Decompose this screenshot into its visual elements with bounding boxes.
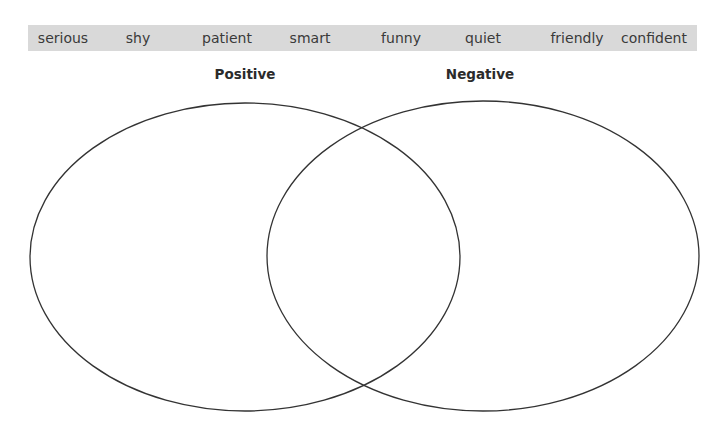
positive-ellipse[interactable]	[30, 103, 460, 411]
negative-ellipse[interactable]	[267, 101, 699, 411]
venn-diagram	[0, 0, 723, 435]
